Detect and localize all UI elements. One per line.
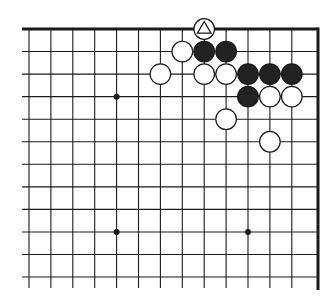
white-stone [194, 64, 215, 85]
black-stone [282, 64, 303, 85]
star-point [114, 94, 120, 100]
star-point [114, 229, 120, 235]
white-stone [216, 64, 237, 85]
go-board [0, 0, 336, 307]
white-stone [282, 86, 303, 107]
white-stone [150, 64, 171, 85]
white-stone [216, 109, 237, 130]
black-stone [194, 41, 215, 62]
white-stone [172, 41, 193, 62]
star-point [245, 229, 251, 235]
black-stone [260, 64, 281, 85]
white-stone [260, 131, 281, 152]
white-stone [260, 86, 281, 107]
black-stone [238, 86, 259, 107]
black-stone [216, 41, 237, 62]
black-stone [238, 64, 259, 85]
